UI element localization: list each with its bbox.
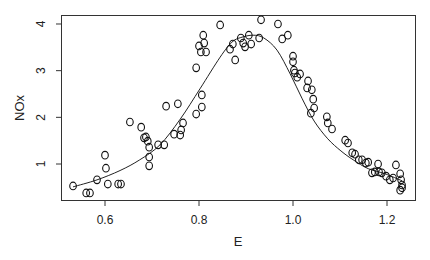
y-tick-label: 1 <box>34 160 48 167</box>
data-point <box>193 110 200 118</box>
data-point <box>285 31 292 39</box>
data-point <box>178 126 185 134</box>
data-point <box>146 153 153 161</box>
smooth-fit-line <box>73 35 402 187</box>
y-axis-label: NOx <box>12 95 27 122</box>
y-tick-label: 3 <box>34 67 48 74</box>
data-point <box>397 186 404 194</box>
x-tick-label: 0.8 <box>191 213 208 227</box>
data-point <box>290 58 297 66</box>
x-tick-label: 1.2 <box>379 213 396 227</box>
data-point <box>393 161 400 169</box>
x-tick-label: 0.6 <box>97 213 114 227</box>
data-point <box>105 180 112 188</box>
y-axis: 1234 <box>34 20 62 167</box>
data-point <box>200 31 207 39</box>
data-point <box>365 158 372 166</box>
data-points <box>70 16 406 197</box>
data-point <box>175 100 182 108</box>
data-point <box>304 84 311 92</box>
scatter-plot: 0.60.81.01.2 1234 E NOx <box>0 0 430 260</box>
data-point <box>258 16 265 24</box>
data-point <box>199 91 206 99</box>
x-axis-label: E <box>234 234 243 249</box>
y-tick-label: 2 <box>34 114 48 121</box>
data-point <box>146 162 153 170</box>
data-point <box>180 119 187 127</box>
data-point <box>232 56 239 64</box>
x-axis: 0.60.81.01.2 <box>97 201 396 228</box>
data-point <box>305 77 312 85</box>
data-point <box>177 131 184 139</box>
data-point <box>138 123 145 131</box>
data-point <box>309 86 316 94</box>
data-point <box>102 151 109 159</box>
data-point <box>193 64 200 72</box>
data-point <box>311 104 318 112</box>
x-tick-label: 1.0 <box>285 213 302 227</box>
data-point <box>163 102 170 110</box>
data-point <box>171 130 178 138</box>
data-point <box>275 20 282 28</box>
data-point <box>256 34 263 42</box>
data-point <box>199 103 206 111</box>
data-point <box>248 40 255 48</box>
data-point <box>103 164 110 172</box>
y-tick-label: 4 <box>34 20 48 27</box>
data-point <box>217 21 224 29</box>
data-point <box>375 160 382 168</box>
data-point <box>329 125 336 133</box>
data-point <box>310 95 317 103</box>
data-point <box>127 118 134 126</box>
